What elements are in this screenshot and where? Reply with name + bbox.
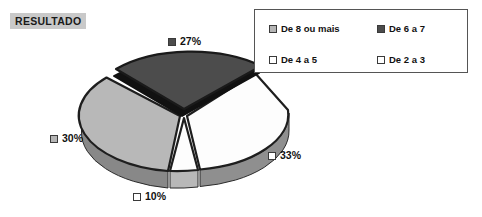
swatch-icon-white bbox=[133, 193, 141, 201]
legend-item-de-4-a-5[interactable]: De 4 a 5 bbox=[269, 55, 317, 65]
legend-item-label: De 2 a 3 bbox=[389, 55, 425, 65]
data-label-10: 10% bbox=[133, 191, 166, 202]
data-label-value: 10% bbox=[145, 191, 166, 202]
legend: De 8 ou mais De 6 a 7 De 4 a 5 De 2 a 3 bbox=[254, 9, 468, 73]
legend-item-de-2-a-3[interactable]: De 2 a 3 bbox=[377, 55, 425, 65]
legend-item-label: De 4 a 5 bbox=[281, 55, 317, 65]
data-label-value: 33% bbox=[280, 150, 301, 161]
legend-item-de-8-ou-mais[interactable]: De 8 ou mais bbox=[269, 24, 340, 34]
legend-swatch-icon bbox=[377, 56, 385, 64]
legend-swatch-icon bbox=[269, 25, 277, 33]
legend-swatch-icon bbox=[377, 25, 385, 33]
swatch-icon-white bbox=[268, 152, 276, 160]
data-label-value: 30% bbox=[62, 133, 83, 144]
data-label-30: 30% bbox=[50, 133, 83, 144]
chart-canvas: RESULTADO bbox=[0, 0, 482, 217]
pie-slice-side-10 bbox=[170, 170, 198, 188]
legend-item-de-6-a-7[interactable]: De 6 a 7 bbox=[377, 24, 425, 34]
legend-item-label: De 8 ou mais bbox=[281, 24, 340, 34]
legend-swatch-icon bbox=[269, 56, 277, 64]
swatch-icon-light bbox=[50, 135, 58, 143]
data-label-27: 27% bbox=[168, 36, 201, 47]
legend-item-label: De 6 a 7 bbox=[389, 24, 425, 34]
data-label-33: 33% bbox=[268, 150, 301, 161]
swatch-icon-dark bbox=[168, 38, 176, 46]
data-label-value: 27% bbox=[180, 36, 201, 47]
